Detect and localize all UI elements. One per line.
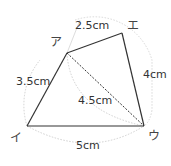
- edge-a-e: [67, 33, 122, 53]
- edge-a-i: [27, 53, 67, 126]
- length-label-au: 4.5cm: [78, 95, 112, 106]
- diagonal-a-u: [67, 53, 144, 126]
- edge-e-u: [122, 33, 144, 126]
- vertex-label-a: ア: [50, 36, 62, 48]
- vertex-label-u: ウ: [148, 130, 160, 142]
- length-label-ae: 2.5cm: [75, 20, 109, 31]
- length-label-ai: 3.5cm: [16, 76, 50, 87]
- length-label-iu: 5cm: [76, 140, 100, 151]
- vertex-label-i: イ: [10, 132, 22, 144]
- length-label-eu: 4cm: [143, 69, 167, 80]
- vertex-label-e: エ: [127, 20, 139, 32]
